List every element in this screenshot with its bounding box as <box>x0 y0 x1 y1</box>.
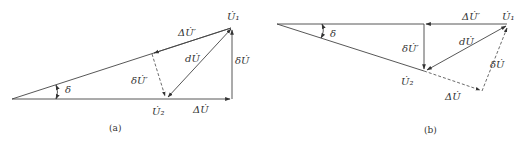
label-angle-b: δ <box>330 28 336 39</box>
label-small-delta-u-b: δU̇ <box>490 59 505 70</box>
label-delta-u-prime-a: ΔU̇′ <box>177 27 197 38</box>
label-d-u-b: dU̇ <box>459 36 474 47</box>
phasor-diagram: U̇₁ ΔU̇′ dU̇ δU̇ δU̇′ δ U̇₂ ΔU̇ (a) ΔU̇′… <box>0 0 524 143</box>
arrow-delta-u-b <box>424 71 480 90</box>
label-u2-a: U̇₂ <box>152 106 164 117</box>
label-small-delta-u-prime-a: δU̇′ <box>131 75 148 86</box>
label-small-delta-u-prime-b: δU̇′ <box>402 43 419 54</box>
panel-a: U̇₁ ΔU̇′ dU̇ δU̇ δU̇′ δ U̇₂ ΔU̇ (a) <box>12 11 250 133</box>
arrow-small-delta-u-prime <box>152 54 165 96</box>
label-angle-a: δ <box>65 84 71 95</box>
label-d-u-a: dU̇ <box>185 53 200 64</box>
label-delta-u-prime-b: ΔU̇′ <box>461 11 481 22</box>
angle-arc-a <box>56 85 58 99</box>
label-small-delta-u-a: δU̇ <box>235 55 250 66</box>
angle-arc-b <box>321 24 323 38</box>
caption-a: (a) <box>109 123 121 133</box>
caption-b: (b) <box>424 125 437 135</box>
label-u2-b: U̇₂ <box>401 76 413 87</box>
label-delta-u-a: ΔU̇ <box>192 104 209 115</box>
label-u1-a: U̇₁ <box>227 11 239 22</box>
label-delta-u-b: ΔU̇ <box>444 91 461 102</box>
label-u1-b: U̇₁ <box>502 11 514 22</box>
panel-b: ΔU̇′ U̇₁ dU̇ δU̇′ δU̇ δ U̇₂ ΔU̇ (b) <box>277 11 514 135</box>
